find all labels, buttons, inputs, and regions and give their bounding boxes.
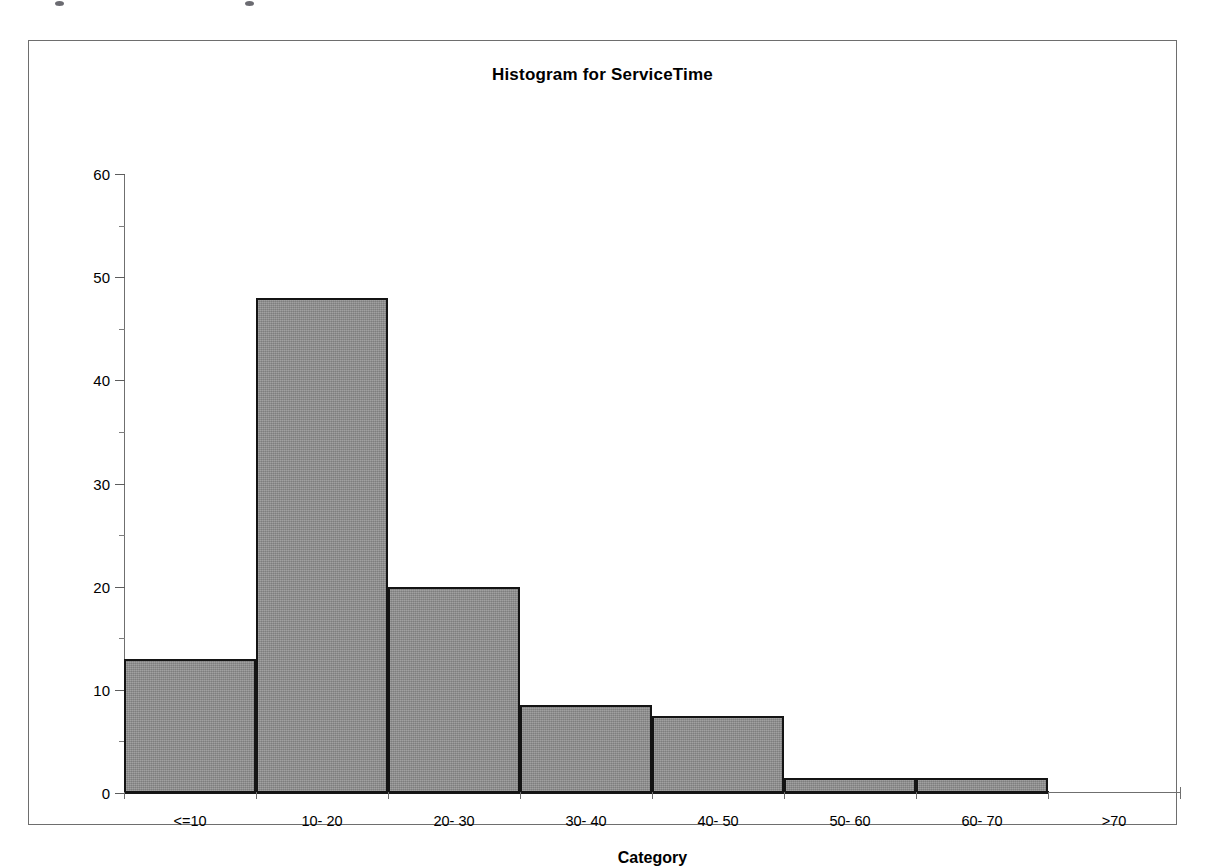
y-axis-minor-tick (119, 226, 125, 227)
x-axis-tick (652, 792, 653, 799)
plot-area: 0102030405060 <=1010- 2020- 3030- 4040- … (124, 174, 1181, 793)
scan-artifact-speck (55, 1, 64, 6)
x-axis-tick (1048, 792, 1049, 799)
y-axis-tick-label: 20 (93, 578, 110, 595)
histogram-bar (784, 778, 916, 793)
y-axis-minor-tick (119, 638, 125, 639)
x-axis-category-label: 20- 30 (433, 813, 474, 829)
y-axis-minor-tick (119, 432, 125, 433)
x-axis-tick (388, 792, 389, 799)
y-axis-tick-label: 0 (102, 785, 110, 802)
y-axis-tick (115, 174, 125, 175)
histogram-bar (124, 659, 256, 793)
figure-frame: Histogram for ServiceTime 0102030405060 … (28, 40, 1177, 825)
y-axis-tick (115, 277, 125, 278)
y-axis-minor-tick (119, 329, 125, 330)
x-axis-tick (520, 792, 521, 799)
y-axis-tick-label: 10 (93, 681, 110, 698)
scan-artifact-speck (245, 1, 254, 6)
x-axis-tick (916, 792, 917, 799)
x-axis-title: Category (124, 849, 1181, 867)
x-axis-tick (256, 792, 257, 799)
x-axis-tick (124, 792, 125, 799)
x-axis-category-label: <=10 (173, 813, 206, 829)
y-axis-tick (115, 484, 125, 485)
histogram-bar (520, 705, 652, 793)
y-axis-tick (115, 587, 125, 588)
x-axis-category-label: 10- 20 (301, 813, 342, 829)
x-axis-category-label: 40- 50 (697, 813, 738, 829)
x-axis-tick (1180, 792, 1181, 799)
x-axis-category-label: 50- 60 (829, 813, 870, 829)
y-axis-tick-label: 40 (93, 372, 110, 389)
x-axis-category-label: 30- 40 (565, 813, 606, 829)
y-axis-tick (115, 380, 125, 381)
x-axis-category-label: >70 (1102, 813, 1127, 829)
chart-title: Histogram for ServiceTime (29, 65, 1176, 85)
y-axis-tick-label: 30 (93, 475, 110, 492)
histogram-bar (256, 298, 388, 793)
histogram-bar (652, 716, 784, 793)
y-axis-tick-label: 50 (93, 269, 110, 286)
y-axis-tick-label: 60 (93, 166, 110, 183)
y-axis-minor-tick (119, 535, 125, 536)
histogram-bar (388, 587, 520, 793)
histogram-bar (916, 778, 1048, 793)
x-axis-tick (784, 792, 785, 799)
x-axis-category-label: 60- 70 (961, 813, 1002, 829)
